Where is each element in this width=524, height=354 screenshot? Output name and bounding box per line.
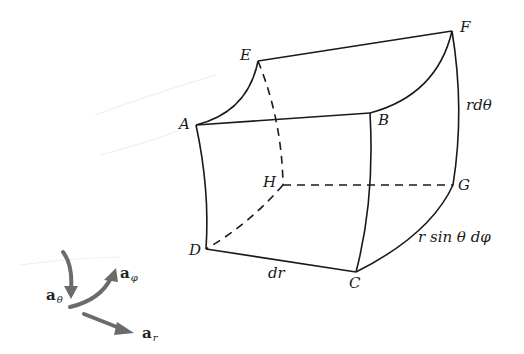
- a-theta-base: a: [46, 286, 56, 304]
- unit-vector-label-a-r: ar: [142, 326, 158, 343]
- edge-AD: [196, 125, 207, 249]
- edge-label-r-dtheta: rdθ: [466, 98, 492, 113]
- vertex-label-H: H: [263, 175, 276, 190]
- vertex-label-E: E: [240, 48, 251, 63]
- vertex-label-D: D: [189, 243, 201, 258]
- edge-label-r-sin-theta-dphi: r sin θ dφ: [418, 230, 491, 245]
- vertex-label-C: C: [349, 276, 360, 291]
- edge-BF: [370, 31, 452, 113]
- a-phi-subscript: φ: [131, 272, 138, 283]
- unit-vector-label-a-theta: aθ: [46, 288, 63, 305]
- vertex-label-B: B: [378, 113, 389, 128]
- a-r-arrow-icon: [84, 314, 134, 335]
- edge-EF: [258, 31, 452, 61]
- edge-EH-hidden: [258, 61, 283, 185]
- vertex-label-F: F: [460, 20, 470, 35]
- a-r-base: a: [142, 324, 152, 342]
- edge-label-dr: dr: [268, 266, 285, 281]
- spherical-volume-element-diagram: E F A B H G D C rdθ r sin θ dφ dr aθ aφ …: [0, 0, 524, 354]
- edge-AE: [196, 61, 258, 125]
- vertex-label-G: G: [458, 178, 470, 193]
- edge-HD-hidden: [206, 185, 283, 249]
- diagram-drawing: [0, 0, 524, 354]
- a-r-subscript: r: [153, 332, 158, 343]
- a-phi-arrow-icon: [70, 268, 118, 307]
- edge-FG: [452, 31, 459, 185]
- a-theta-subscript: θ: [57, 294, 63, 305]
- ghost-line: [95, 75, 215, 115]
- a-phi-base: a: [120, 264, 130, 282]
- ghost-line: [100, 130, 180, 155]
- edge-BC: [356, 113, 371, 272]
- unit-vector-label-a-phi: aφ: [120, 266, 138, 283]
- vertex-label-A: A: [179, 117, 190, 132]
